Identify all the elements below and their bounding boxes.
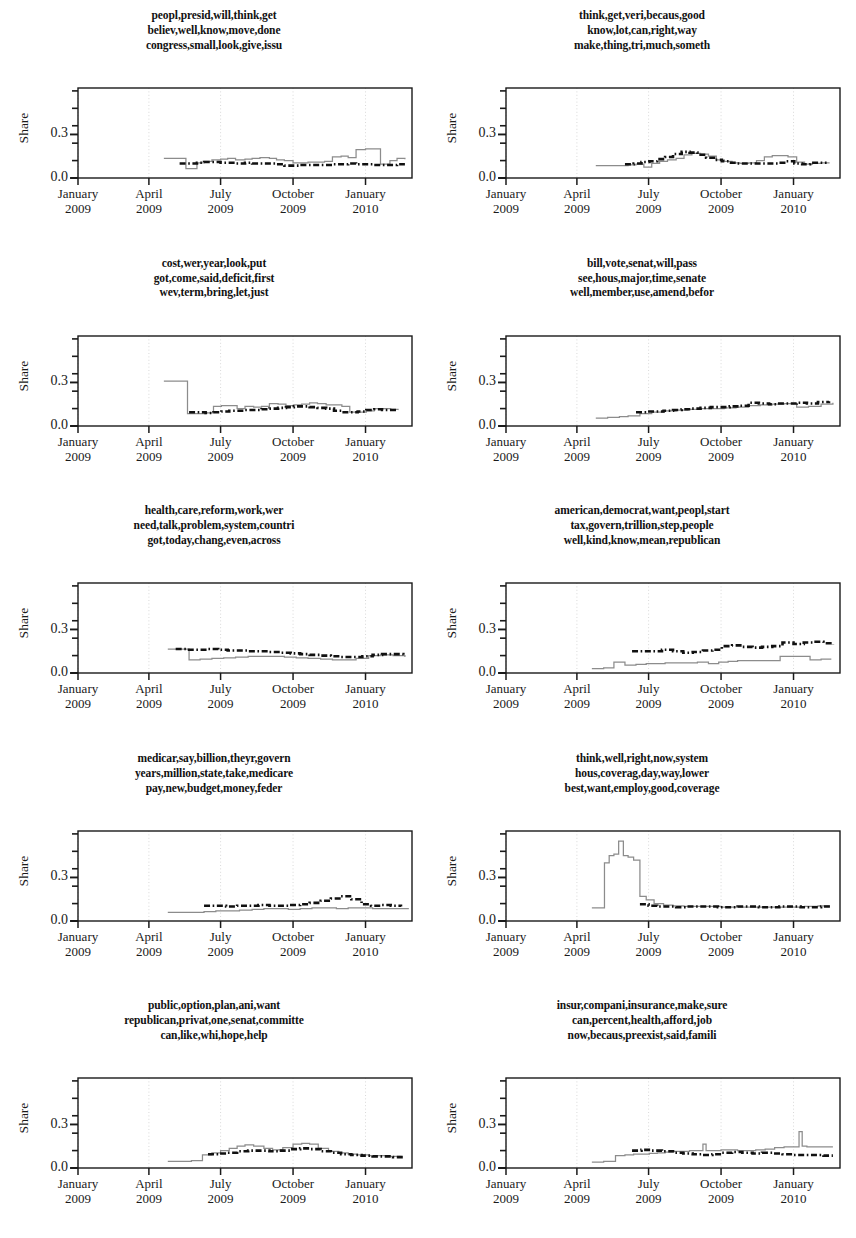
plot-area [0,743,428,991]
axis-frame [506,336,840,426]
chart-panel: public,option,plan,ani,wantrepublican,pr… [0,990,428,1238]
chart-panel: american,democrat,want,peopl,starttax,go… [428,495,856,743]
plot-area [0,495,428,743]
panel-grid: peopl,presid,will,think,getbeliev,well,k… [0,0,856,1238]
series-line-solid [592,1132,833,1162]
series-line-dashdot [208,1149,403,1158]
plot-area [428,495,856,743]
chart-panel: insur,compani,insurance,make,surecan,per… [428,990,856,1238]
series-line-dashdot [632,642,833,653]
plot-area [428,0,856,248]
chart-panel: peopl,presid,will,think,getbeliev,well,k… [0,0,428,248]
plot-area [428,248,856,496]
plot-area [0,990,428,1238]
series-line-dashdot [189,406,399,413]
chart-panel: health,care,reform,work,werneed,talk,pro… [0,495,428,743]
chart-panel: bill,vote,senat,will,passsee,hous,major,… [428,248,856,496]
plot-area [428,990,856,1238]
chart-panel: medicar,say,billion,theyr,governyears,mi… [0,743,428,991]
plot-area [0,0,428,248]
series-line-dashdot [180,162,405,166]
series-line-dashdot [204,896,401,906]
series-line-solid [596,402,833,417]
axis-frame [506,88,840,178]
series-line-solid [168,1144,401,1162]
plot-area [0,248,428,496]
series-line-solid [592,841,829,908]
chart-panel: think,get,veri,becaus,goodknow,lot,can,r… [428,0,856,248]
series-line-solid [592,656,831,668]
series-line-solid [164,381,399,414]
axis-frame [506,583,840,673]
axis-frame [78,583,412,673]
plot-area [428,743,856,991]
chart-panel: think,well,right,now,systemhous,coverag,… [428,743,856,991]
series-line-solid [168,908,409,912]
chart-panel: cost,wer,year,look,putgot,come,said,defi… [0,248,428,496]
